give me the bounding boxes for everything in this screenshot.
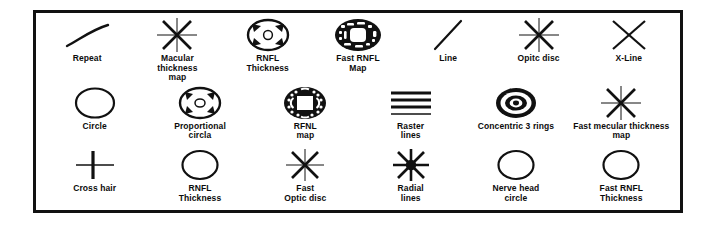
legend-item-cross-hair[interactable]: Cross hair (42, 145, 147, 208)
legend-item-concentric-3-rings[interactable]: Concentric 3 rings (463, 83, 568, 146)
legend-item-label: Radial lines (398, 184, 424, 203)
legend-item-rfnl-map[interactable]: RFNL map (253, 83, 358, 146)
diagonal-line-icon (419, 18, 477, 52)
legend-item-label: Fast RNFL Map (336, 54, 379, 73)
circle-outline-icon (66, 86, 124, 120)
icon-row: Circle Proportional circla (42, 83, 674, 146)
arc-curve-icon (58, 18, 116, 52)
legend-item-label: Line (439, 54, 457, 64)
legend-item-label: Fast mecular thickness map (573, 122, 669, 141)
legend-item-fast-optic-disc[interactable]: Fast Optic disc (253, 145, 358, 208)
legend-item-label: RNFL Thickness (179, 184, 221, 203)
legend-item-fast-rnfl-thickness[interactable]: Fast RNFL Thickness (569, 145, 674, 208)
legend-item-label: Proportional circla (174, 122, 226, 141)
bullseye-three-rings-icon (487, 86, 545, 120)
icon-row: Cross hair RNFL Thickness (42, 145, 674, 208)
circle-outline-icon (487, 148, 545, 182)
legend-item-rnfl-thickness-circle[interactable]: RNFL Thickness (147, 145, 252, 208)
legend-item-label: Raster lines (397, 122, 424, 141)
filled-ellipse-dashed-map-icon (329, 18, 387, 52)
eight-spoke-asterisk-icon (276, 148, 334, 182)
radial-lines-filled-hub-icon (382, 148, 440, 182)
legend-item-repeat[interactable]: Repeat (42, 15, 132, 83)
eight-spoke-asterisk-icon (592, 86, 650, 120)
legend-item-radial-lines[interactable]: Radial lines (358, 145, 463, 208)
eight-spoke-asterisk-icon (510, 18, 568, 52)
legend-item-circle[interactable]: Circle (42, 83, 147, 146)
legend-item-label: Cross hair (73, 184, 116, 194)
legend-item-optic-disc[interactable]: Opitc disc (493, 15, 583, 83)
legend-item-label: Macular thickness map (157, 54, 197, 83)
legend-item-label: Fast RNFL Thickness (600, 184, 643, 203)
circle-outline-icon (171, 148, 229, 182)
x-cross-icon (600, 18, 658, 52)
legend-item-label: RNFL Thickness (246, 54, 288, 73)
icon-grid: Repeat Macular thickness map (36, 13, 680, 210)
legend-item-rnfl-thickness[interactable]: RNFL Thickness (223, 15, 313, 83)
legend-item-label: Repeat (73, 54, 102, 64)
legend-item-label: RFNL map (294, 122, 317, 141)
legend-item-label: Nerve head circle (493, 184, 540, 203)
legend-item-macular-thickness-map[interactable]: Macular thickness map (132, 15, 222, 83)
legend-item-fast-macular-thickness-map[interactable]: Fast mecular thickness map (569, 83, 674, 146)
legend-item-label: Opitc disc (518, 54, 560, 64)
filled-circle-square-map-icon (276, 86, 334, 120)
legend-item-label: Circle (83, 122, 107, 132)
legend-item-label: Fast Optic disc (284, 184, 326, 203)
cross-hair-icon (66, 148, 124, 182)
legend-item-label: Concentric 3 rings (478, 122, 554, 132)
raster-lines-icon (382, 86, 440, 120)
legend-item-label: X-Line (616, 54, 643, 64)
legend-item-x-line[interactable]: X-Line (584, 15, 674, 83)
legend-item-raster-lines[interactable]: Raster lines (358, 83, 463, 146)
legend-item-fast-rnfl-map[interactable]: Fast RNFL Map (313, 15, 403, 83)
legend-frame: Repeat Macular thickness map (33, 10, 683, 213)
legend-item-proportional-circle[interactable]: Proportional circla (147, 83, 252, 146)
eight-spoke-asterisk-icon (148, 18, 206, 52)
circle-outline-icon (592, 148, 650, 182)
legend-item-nerve-head-circle[interactable]: Nerve head circle (463, 145, 568, 208)
legend-item-line[interactable]: Line (403, 15, 493, 83)
ellipse-outward-arrows-icon (171, 86, 229, 120)
icon-row: Repeat Macular thickness map (42, 15, 674, 83)
ellipse-inward-arrows-icon (239, 18, 297, 52)
